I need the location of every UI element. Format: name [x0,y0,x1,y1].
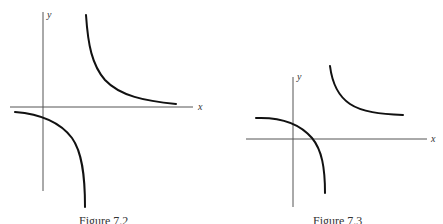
x-axis-label: x [197,101,203,112]
y-axis-label: y [46,9,52,20]
lower-branch-curve [15,112,85,207]
figure-7-2-caption: Figure 7.2 [79,214,128,224]
lower-branch-curve [256,118,325,193]
figure-7-3: y x [246,66,436,207]
figures-canvas: y x y x [0,0,443,224]
x-axis-label: x [430,133,436,144]
upper-branch-curve [86,15,176,104]
figure-7-2: y x [10,9,203,207]
upper-branch-curve [330,66,403,115]
figure-7-3-caption: Figure 7.3 [313,214,362,224]
y-axis-label: y [296,71,302,82]
